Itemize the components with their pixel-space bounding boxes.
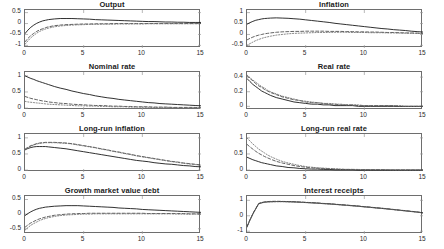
- series-canvas-growth-market-value-debt: [25, 196, 201, 234]
- series-canvas-real-rate: [247, 72, 423, 110]
- plot-area-inflation: [246, 9, 422, 47]
- plot-area-real-rate: [246, 71, 422, 109]
- series-growth-market-value-debt-dashdot: [25, 214, 201, 230]
- x-tick-label-growth-market-value-debt-3: 15: [191, 236, 209, 243]
- x-tick-label-growth-market-value-debt-1: 5: [74, 236, 92, 243]
- panel-title-growth-market-value-debt: Growth market value debt: [24, 186, 200, 195]
- y-tick-label-output-0: 0.5: [0, 8, 21, 15]
- y-tick-label-output-2: -0.5: [0, 30, 21, 37]
- x-tick-label-inflation-1: 5: [296, 50, 314, 57]
- plot-area-growth-market-value-debt: [24, 195, 200, 233]
- series-interest-receipts-dashed: [247, 201, 423, 226]
- series-canvas-nominal-rate: [25, 72, 201, 110]
- panel-nominal-rate: Nominal rate10.50051015: [0, 62, 200, 120]
- y-tick-label-long-run-inflation-2: 0: [0, 166, 21, 173]
- panel-real-rate: Real rate0.40.20051015: [222, 62, 422, 120]
- y-tick-label-long-run-inflation-1: 0.5: [0, 150, 21, 157]
- y-tick-label-interest-receipts-1: 0: [222, 212, 243, 219]
- x-tick-label-long-run-inflation-1: 5: [74, 174, 92, 181]
- series-canvas-interest-receipts: [247, 196, 423, 234]
- x-tick-label-growth-market-value-debt-2: 10: [132, 236, 150, 243]
- panel-title-real-rate: Real rate: [246, 62, 422, 71]
- panel-title-long-run-inflation: Long-run inflation: [24, 124, 200, 133]
- series-canvas-output: [25, 10, 201, 48]
- y-tick-label-output-3: -1: [0, 41, 21, 48]
- x-tick-label-interest-receipts-2: 10: [354, 236, 372, 243]
- series-interest-receipts-solid: [247, 202, 423, 227]
- x-tick-label-output-0: 0: [15, 50, 33, 57]
- plot-area-output: [24, 9, 200, 47]
- series-real-rate-dashdot: [247, 75, 423, 106]
- y-tick-label-growth-market-value-debt-2: -0.5: [0, 225, 21, 232]
- x-tick-label-output-2: 10: [132, 50, 150, 57]
- panel-title-long-run-real-rate: Long-run real rate: [246, 124, 422, 133]
- series-nominal-rate-solid: [25, 76, 201, 106]
- panel-inflation: Inflation10.50-0.5051015: [222, 0, 422, 58]
- y-tick-label-nominal-rate-2: 0: [0, 104, 21, 111]
- series-inflation-dashdot: [247, 32, 423, 45]
- y-tick-label-long-run-real-rate-2: 0: [222, 166, 243, 173]
- x-tick-label-real-rate-3: 15: [413, 112, 431, 119]
- x-tick-label-nominal-rate-2: 10: [132, 112, 150, 119]
- series-real-rate-dashed: [247, 76, 423, 107]
- x-tick-label-long-run-real-rate-1: 5: [296, 174, 314, 181]
- y-tick-label-inflation-2: 0: [222, 30, 243, 37]
- y-tick-label-output-1: 0: [0, 19, 21, 26]
- x-tick-label-real-rate-1: 5: [296, 112, 314, 119]
- x-tick-label-interest-receipts-3: 15: [413, 236, 431, 243]
- panel-interest-receipts: Interest receipts10-1051015: [222, 186, 422, 244]
- x-tick-label-output-3: 15: [191, 50, 209, 57]
- y-tick-label-inflation-1: 0.5: [222, 19, 243, 26]
- x-tick-label-real-rate-0: 0: [237, 112, 255, 119]
- series-inflation-solid: [247, 18, 423, 32]
- x-tick-label-interest-receipts-0: 0: [237, 236, 255, 243]
- panel-long-run-real-rate: Long-run real rate10.50051015: [222, 124, 422, 182]
- x-tick-label-real-rate-2: 10: [354, 112, 372, 119]
- series-canvas-long-run-inflation: [25, 134, 201, 172]
- y-tick-label-inflation-3: -0.5: [222, 41, 243, 48]
- panel-title-output: Output: [24, 0, 200, 9]
- plot-area-long-run-inflation: [24, 133, 200, 171]
- x-tick-label-output-1: 5: [74, 50, 92, 57]
- y-tick-label-real-rate-1: 0.2: [222, 88, 243, 95]
- series-long-run-inflation-solid: [25, 147, 201, 167]
- y-tick-label-growth-market-value-debt-1: 0: [0, 210, 21, 217]
- series-growth-market-value-debt-solid: [25, 206, 201, 216]
- impulse-response-figure: Output0.50-0.5-1051015Inflation10.50-0.5…: [0, 0, 444, 249]
- x-tick-label-long-run-inflation-3: 15: [191, 174, 209, 181]
- y-tick-label-nominal-rate-0: 1: [0, 72, 21, 79]
- y-tick-label-long-run-real-rate-1: 0.5: [222, 150, 243, 157]
- plot-area-interest-receipts: [246, 195, 422, 233]
- y-tick-label-long-run-inflation-0: 1: [0, 134, 21, 141]
- panel-growth-market-value-debt: Growth market value debt0.50-0.5051015: [0, 186, 200, 244]
- panel-title-inflation: Inflation: [246, 0, 422, 9]
- x-tick-label-nominal-rate-1: 5: [74, 112, 92, 119]
- panel-long-run-inflation: Long-run inflation10.50051015: [0, 124, 200, 182]
- x-tick-label-interest-receipts-1: 5: [296, 236, 314, 243]
- panel-title-interest-receipts: Interest receipts: [246, 186, 422, 195]
- plot-area-long-run-real-rate: [246, 133, 422, 171]
- series-interest-receipts-dashdot: [247, 202, 423, 227]
- series-canvas-long-run-real-rate: [247, 134, 423, 172]
- y-tick-label-growth-market-value-debt-0: 0.5: [0, 195, 21, 202]
- x-tick-label-long-run-real-rate-2: 10: [354, 174, 372, 181]
- y-tick-label-nominal-rate-1: 0.5: [0, 88, 21, 95]
- x-tick-label-nominal-rate-0: 0: [15, 112, 33, 119]
- x-tick-label-inflation-2: 10: [354, 50, 372, 57]
- panel-output: Output0.50-0.5-1051015: [0, 0, 200, 58]
- series-growth-market-value-debt-dashed: [25, 213, 201, 227]
- series-canvas-inflation: [247, 10, 423, 48]
- x-tick-label-long-run-real-rate-0: 0: [237, 174, 255, 181]
- panel-title-nominal-rate: Nominal rate: [24, 62, 200, 71]
- y-tick-label-real-rate-0: 0.4: [222, 73, 243, 80]
- plot-area-nominal-rate: [24, 71, 200, 109]
- x-tick-label-growth-market-value-debt-0: 0: [15, 236, 33, 243]
- series-output-dashdot: [25, 24, 201, 45]
- series-long-run-real-rate-dashed: [247, 144, 423, 170]
- y-tick-label-interest-receipts-0: 1: [222, 196, 243, 203]
- series-long-run-inflation-dashed: [25, 142, 201, 165]
- series-long-run-real-rate-solid: [247, 157, 423, 170]
- y-tick-label-interest-receipts-2: -1: [222, 227, 243, 234]
- x-tick-label-long-run-inflation-0: 0: [15, 174, 33, 181]
- x-tick-label-nominal-rate-3: 15: [191, 112, 209, 119]
